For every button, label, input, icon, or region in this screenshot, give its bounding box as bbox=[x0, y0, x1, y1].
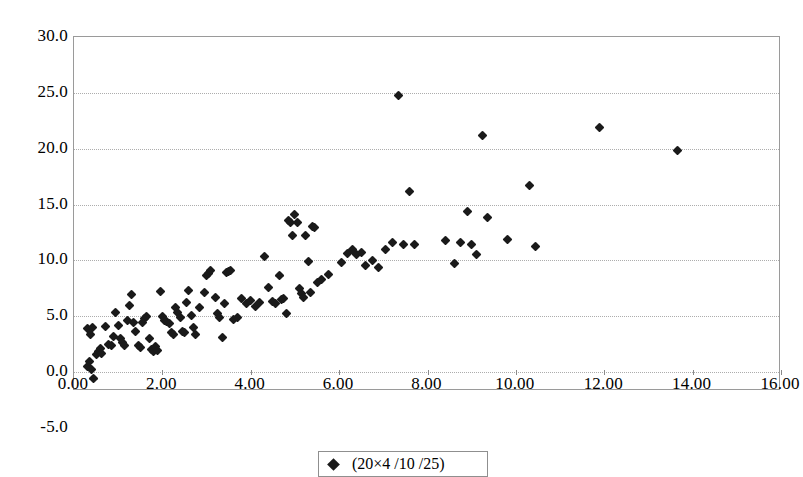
y-tick-label: 25.0 bbox=[6, 83, 68, 100]
data-point bbox=[387, 238, 397, 248]
data-point bbox=[131, 327, 141, 337]
y-tick-label: 20.0 bbox=[6, 139, 68, 156]
data-point bbox=[595, 122, 605, 132]
data-point bbox=[471, 250, 481, 260]
y-tick-label: 30.0 bbox=[6, 27, 68, 44]
data-point bbox=[184, 286, 194, 296]
data-point bbox=[303, 256, 313, 266]
data-point bbox=[217, 332, 227, 342]
data-point bbox=[405, 186, 415, 196]
data-point bbox=[87, 365, 97, 375]
x-tick-label: 16.00 bbox=[740, 375, 803, 392]
data-point bbox=[398, 240, 408, 250]
data-point bbox=[126, 290, 136, 300]
data-point bbox=[155, 287, 165, 297]
x-tick-label: 8.00 bbox=[387, 375, 467, 392]
legend-diamond-marker bbox=[327, 458, 340, 471]
data-point bbox=[195, 302, 205, 312]
data-point bbox=[672, 146, 682, 156]
x-tick-label: 6.00 bbox=[298, 375, 378, 392]
data-point bbox=[281, 309, 291, 319]
x-axis-tick-labels: 0.002.004.006.008.0010.0012.0014.0016.00 bbox=[0, 375, 803, 399]
data-point bbox=[524, 181, 534, 191]
x-tick-label: 4.00 bbox=[210, 375, 290, 392]
data-point bbox=[263, 282, 273, 292]
x-tick-label: 2.00 bbox=[121, 375, 201, 392]
data-point bbox=[467, 240, 477, 250]
data-point bbox=[478, 130, 488, 140]
data-point bbox=[182, 298, 192, 308]
data-point bbox=[374, 262, 384, 272]
data-point bbox=[336, 258, 346, 268]
data-point bbox=[113, 320, 123, 330]
y-tick-label: 15.0 bbox=[6, 195, 68, 212]
data-point bbox=[199, 288, 209, 298]
x-tick-label: 0.00 bbox=[33, 375, 113, 392]
data-point bbox=[186, 310, 196, 320]
y-tick-label: -5.0 bbox=[6, 418, 68, 435]
data-point bbox=[310, 223, 320, 233]
data-point bbox=[440, 235, 450, 245]
data-point bbox=[462, 206, 472, 216]
data-point bbox=[124, 300, 134, 310]
data-point bbox=[482, 213, 492, 223]
gridline bbox=[74, 372, 779, 373]
data-point bbox=[502, 234, 512, 244]
data-point bbox=[381, 244, 391, 254]
legend-entry-label: (20×4 /10 /25) bbox=[352, 456, 445, 472]
data-point bbox=[301, 231, 311, 241]
y-tick-label: 10.0 bbox=[6, 250, 68, 267]
x-tick-label: 10.00 bbox=[475, 375, 555, 392]
data-point bbox=[219, 299, 229, 309]
x-tick-label: 14.00 bbox=[652, 375, 732, 392]
data-point bbox=[215, 312, 225, 322]
data-point bbox=[456, 238, 466, 248]
data-point bbox=[275, 271, 285, 281]
gridline bbox=[74, 205, 779, 206]
x-tick-label: 12.00 bbox=[563, 375, 643, 392]
data-point bbox=[210, 292, 220, 302]
y-tick-label: 5.0 bbox=[6, 306, 68, 323]
plot-area bbox=[73, 36, 780, 390]
data-point bbox=[120, 340, 130, 350]
data-point bbox=[144, 334, 154, 344]
data-point bbox=[394, 90, 404, 100]
data-point bbox=[288, 231, 298, 241]
data-point bbox=[101, 321, 111, 331]
data-point bbox=[409, 240, 419, 250]
gridline bbox=[74, 93, 779, 94]
data-point bbox=[531, 242, 541, 252]
chart-legend: (20×4 /10 /25) bbox=[318, 451, 488, 477]
gridline bbox=[74, 260, 779, 261]
data-point bbox=[180, 328, 190, 338]
